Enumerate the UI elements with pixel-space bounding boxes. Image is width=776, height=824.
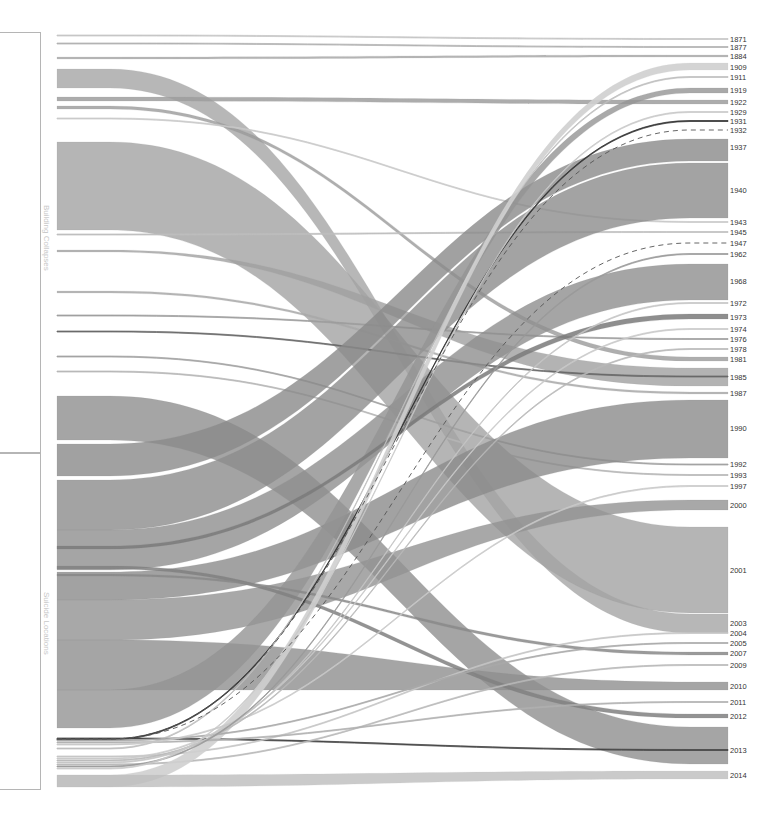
year-label: 1993 <box>730 471 747 480</box>
year-label: 1990 <box>730 424 747 433</box>
year-label: 1962 <box>730 250 747 259</box>
year-label: 1976 <box>730 335 747 344</box>
year-label: 1985 <box>730 373 747 382</box>
year-label: 1974 <box>730 325 747 334</box>
year-label: 1919 <box>730 86 747 95</box>
year-label: 1932 <box>730 126 747 135</box>
year-label: 2003 <box>730 619 747 628</box>
year-label: 2005 <box>730 639 747 648</box>
year-label: 1922 <box>730 98 747 107</box>
year-label: 2011 <box>730 698 746 707</box>
year-label: 1973 <box>730 313 747 322</box>
flow-ribbon <box>57 43 728 48</box>
year-label: 1978 <box>730 345 747 354</box>
year-label: 1940 <box>730 186 747 195</box>
year-label: 2001 <box>730 566 747 575</box>
sankey-diagram <box>0 0 776 824</box>
year-label: 1877 <box>730 43 747 52</box>
year-label: 1997 <box>730 482 747 491</box>
year-label: 1929 <box>730 108 747 117</box>
year-label: 2007 <box>730 649 747 658</box>
flow-ribbon <box>57 35 728 40</box>
year-label: 2012 <box>730 712 747 721</box>
year-label: 1972 <box>730 299 747 308</box>
flow-ribbons <box>57 35 728 787</box>
flow-ribbon <box>57 55 728 59</box>
flow-ribbon <box>57 640 728 690</box>
year-label: 2009 <box>730 661 747 670</box>
year-label: 2000 <box>730 501 747 510</box>
year-label: 1945 <box>730 228 747 237</box>
year-label: 1947 <box>730 239 747 248</box>
year-label: 2013 <box>730 746 747 755</box>
year-label: 1909 <box>730 63 747 72</box>
year-label: 2004 <box>730 629 747 638</box>
year-label: 2010 <box>730 682 747 691</box>
year-label: 1911 <box>730 73 746 82</box>
year-label: 1931 <box>730 117 747 126</box>
year-label: 1937 <box>730 143 747 152</box>
year-label: 2014 <box>730 771 747 780</box>
year-label: 1943 <box>730 218 747 227</box>
year-label: 1981 <box>730 355 747 364</box>
year-label: 1884 <box>730 52 747 61</box>
year-label: 1968 <box>730 277 747 286</box>
year-label: 1987 <box>730 389 747 398</box>
year-label: 1992 <box>730 460 747 469</box>
